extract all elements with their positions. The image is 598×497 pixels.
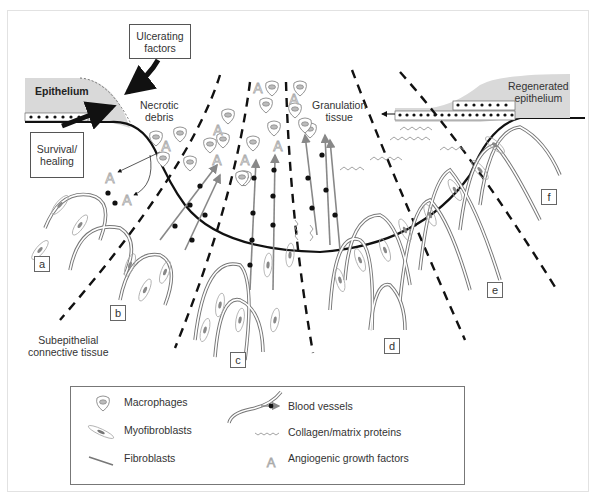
- myofibroblast-icon: [87, 423, 115, 440]
- stage-d-tag: d: [384, 338, 400, 354]
- stage-e-tag: e: [487, 282, 503, 298]
- granulation-tissue-label: Granulation tissue: [312, 99, 366, 123]
- collagen-icon: [255, 433, 279, 435]
- stage-a-tag: a: [34, 256, 50, 272]
- stage-b-tag: b: [110, 305, 126, 321]
- legend-label-myofibroblasts: Myofibroblasts: [124, 424, 192, 436]
- fibroblast-icon: [89, 457, 113, 465]
- ulcerating-factors-box: Ulcerating factors: [129, 24, 191, 59]
- legend-label-macrophages: Macrophages: [124, 396, 188, 408]
- legend-label-angiogenic: Angiogenic growth factors: [288, 452, 409, 464]
- ulcerating-arrow: [128, 60, 158, 92]
- legend-label-blood-vessels: Blood vessels: [288, 400, 353, 412]
- survival-healing-box: Survival/ healing: [30, 132, 84, 178]
- blood-vessel-icon: [229, 392, 281, 423]
- subepithelial-connective-tissue-label: Subepithelial connective tissue: [28, 334, 109, 358]
- legend: A Macrophages Myofibroblasts Fibroblasts…: [70, 386, 465, 485]
- necrotic-debris-label: Necrotic debris: [140, 99, 179, 123]
- regenerated-epithelium-label: Regenerated epithelium: [508, 80, 569, 104]
- angiogenic-factor-icon: A: [267, 455, 276, 470]
- stage-f-tag: f: [541, 189, 557, 205]
- epithelium-label: Epithelium: [35, 85, 89, 97]
- legend-label-collagen: Collagen/matrix proteins: [288, 426, 401, 438]
- svg-text:A: A: [267, 455, 276, 470]
- macrophage-icon: [97, 396, 110, 411]
- stage-c-tag: c: [230, 352, 246, 368]
- legend-label-fibroblasts: Fibroblasts: [124, 452, 175, 464]
